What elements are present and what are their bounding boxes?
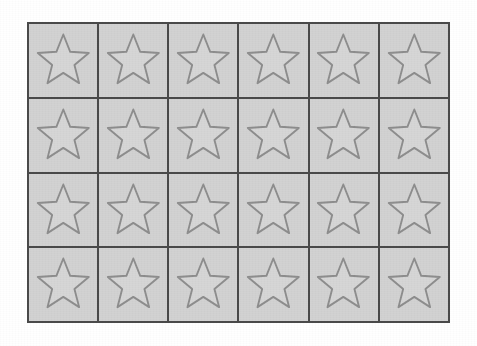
star-icon: [34, 104, 93, 167]
star-icon: [244, 29, 303, 92]
grid-row: [29, 99, 448, 172]
grid-cell[interactable]: [380, 99, 448, 172]
grid-cell[interactable]: [239, 99, 307, 172]
star-icon: [174, 253, 233, 316]
star-grid: [27, 22, 450, 323]
star-icon: [104, 29, 163, 92]
star-icon: [34, 29, 93, 92]
star-icon: [244, 104, 303, 167]
star-icon: [385, 29, 444, 92]
grid-cell[interactable]: [29, 99, 97, 172]
grid-cell[interactable]: [310, 99, 378, 172]
grid-cell[interactable]: [99, 174, 167, 247]
star-icon: [314, 253, 373, 316]
grid-cell[interactable]: [380, 174, 448, 247]
star-icon: [244, 253, 303, 316]
grid-row: [29, 248, 448, 321]
grid-cell[interactable]: [310, 24, 378, 97]
star-icon: [244, 179, 303, 242]
star-icon: [314, 179, 373, 242]
grid-cell[interactable]: [29, 248, 97, 321]
star-icon: [385, 104, 444, 167]
grid-cell[interactable]: [29, 174, 97, 247]
grid-cell[interactable]: [169, 248, 237, 321]
grid-row: [29, 174, 448, 247]
grid-cell[interactable]: [169, 24, 237, 97]
star-icon: [104, 253, 163, 316]
star-icon: [104, 104, 163, 167]
grid-cell[interactable]: [99, 24, 167, 97]
grid-cell[interactable]: [380, 248, 448, 321]
star-icon: [174, 104, 233, 167]
star-icon: [34, 179, 93, 242]
grid-cell[interactable]: [310, 174, 378, 247]
grid-cell[interactable]: [239, 24, 307, 97]
grid-cell[interactable]: [99, 248, 167, 321]
star-icon: [174, 29, 233, 92]
grid-cell[interactable]: [239, 174, 307, 247]
star-icon: [34, 253, 93, 316]
star-icon: [385, 179, 444, 242]
grid-cell[interactable]: [310, 248, 378, 321]
star-icon: [174, 179, 233, 242]
grid-cell[interactable]: [99, 99, 167, 172]
grid-cell[interactable]: [380, 24, 448, 97]
star-icon: [104, 179, 163, 242]
grid-cell[interactable]: [169, 99, 237, 172]
grid-cell[interactable]: [239, 248, 307, 321]
grid-cell[interactable]: [29, 24, 97, 97]
star-icon: [314, 29, 373, 92]
star-icon: [385, 253, 444, 316]
grid-cell[interactable]: [169, 174, 237, 247]
grid-row: [29, 24, 448, 97]
star-icon: [314, 104, 373, 167]
